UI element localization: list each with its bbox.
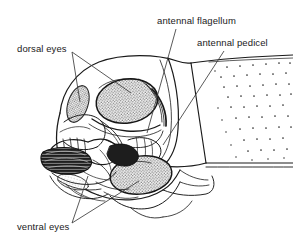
label-antennal-flagellum: antennal flagellum xyxy=(157,15,236,26)
label-dorsal-eyes: dorsal eyes xyxy=(17,43,67,54)
label-antennal-pedicel: antennal pedicel xyxy=(197,37,268,48)
label-ventral-eyes: ventral eyes xyxy=(17,221,69,232)
